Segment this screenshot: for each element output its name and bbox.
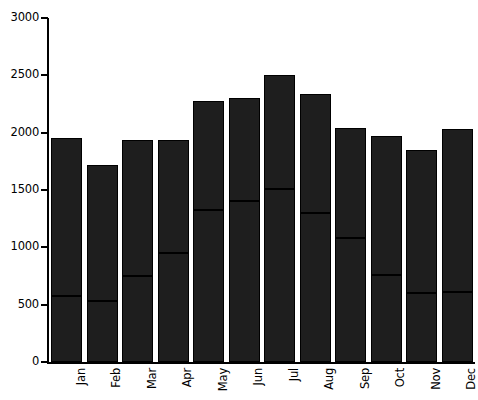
x-tick-label: Jan [74,368,88,400]
plot-area [49,18,475,362]
bar-segment-upper[interactable] [300,94,331,213]
bar-segment-upper[interactable] [371,136,402,275]
y-tick-label: 1500 [0,184,39,196]
bar-group[interactable] [193,101,224,362]
y-tick-mark [41,17,48,19]
bar-segment-lower[interactable] [193,210,224,362]
y-tick-mark [41,189,48,191]
y-tick-label: 2500 [0,69,39,81]
x-tick-label: Apr [180,368,194,400]
y-tick-label-text: 0 [3,356,39,368]
x-tick-label: Mar [145,368,159,400]
x-tick-label: Feb [109,368,123,400]
y-tick-label-text: 3000 [3,12,39,24]
bar-segment-upper[interactable] [193,101,224,210]
bar-segment-upper[interactable] [158,140,189,254]
y-tick-label-text: 2000 [3,127,39,139]
x-tick-label: May [216,368,230,400]
bar-segment-lower[interactable] [371,275,402,362]
y-tick-mark [41,304,48,306]
x-tick-label: Jun [251,368,265,400]
x-tick-label: Dec [464,368,478,400]
bar-segment-upper[interactable] [264,75,295,189]
bar-segment-upper[interactable] [122,140,153,276]
bar-segment-upper[interactable] [442,129,473,292]
bar-group[interactable] [229,98,260,362]
bar-segment-upper[interactable] [406,150,437,293]
bar-group[interactable] [264,75,295,362]
y-tick-label-text: 2500 [3,69,39,81]
bar-segment-lower[interactable] [300,213,331,362]
y-tick-mark [41,246,48,248]
bar-segment-upper[interactable] [87,165,118,301]
y-tick-label-text: 500 [3,299,39,311]
x-tick-label: Oct [393,368,407,400]
x-axis-line [47,362,475,364]
bar-segment-lower[interactable] [87,301,118,362]
x-tick-label: Nov [429,368,443,400]
bar-segment-lower[interactable] [264,189,295,362]
x-tick-label: Sep [358,368,372,400]
bar-segment-lower[interactable] [51,296,82,362]
bar-group[interactable] [371,136,402,362]
bar-group[interactable] [51,138,82,362]
bar-segment-lower[interactable] [122,276,153,362]
bar-segment-lower[interactable] [442,292,473,362]
y-tick-mark [41,132,48,134]
bar-segment-upper[interactable] [335,128,366,239]
bar-group[interactable] [335,128,366,362]
y-tick-label: 1000 [0,241,39,253]
y-tick-label: 3000 [0,12,39,24]
y-tick-label-text: 1000 [3,241,39,253]
bar-group[interactable] [87,165,118,362]
bar-group[interactable] [158,140,189,362]
bar-segment-lower[interactable] [229,201,260,362]
bar-segment-upper[interactable] [51,138,82,296]
bar-chart: 050010001500200025003000 JanFebMarAprMay… [0,0,478,400]
x-tick-label: Aug [322,368,336,400]
x-tick-label: Jul [287,368,301,400]
bar-group[interactable] [442,129,473,362]
bar-group[interactable] [300,94,331,362]
y-tick-label: 500 [0,299,39,311]
bar-segment-lower[interactable] [406,293,437,362]
y-tick-label: 0 [0,356,39,368]
y-tick-label-text: 1500 [3,184,39,196]
bar-segment-lower[interactable] [335,238,366,362]
bar-group[interactable] [406,150,437,362]
bar-segment-upper[interactable] [229,98,260,201]
bar-group[interactable] [122,140,153,362]
y-tick-label: 2000 [0,127,39,139]
y-tick-mark [41,74,48,76]
bar-segment-lower[interactable] [158,253,189,362]
